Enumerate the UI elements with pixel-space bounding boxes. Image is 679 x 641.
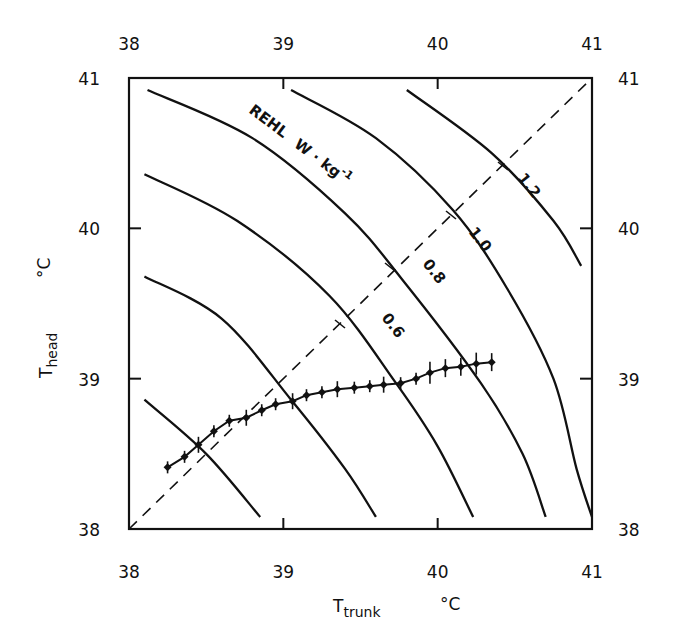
tick-labels: 38394041383940413839404138394041 (78, 34, 639, 582)
y-tick-label: 39 (78, 370, 100, 390)
right-tick-label: 38 (618, 520, 640, 540)
y-tick-label: 41 (78, 69, 100, 89)
data-point (272, 400, 280, 408)
data-point (426, 369, 434, 377)
isoline-value-label: 1.0 (465, 223, 496, 255)
x-tick-label: 39 (273, 562, 295, 582)
data-point (457, 363, 465, 371)
y-tick-label: 38 (78, 520, 100, 540)
data-point (472, 360, 480, 368)
right-tick-label: 41 (618, 69, 640, 89)
data-point (380, 381, 388, 389)
data-point (318, 388, 326, 396)
data-point (350, 384, 358, 392)
y-axis-unit: °C (34, 258, 54, 278)
top-tick-label: 38 (118, 34, 140, 54)
data-point (333, 385, 341, 393)
x-tick-label: 40 (427, 562, 449, 582)
data-series (164, 353, 496, 474)
isoline (144, 276, 375, 517)
right-tick-label: 40 (618, 219, 640, 239)
x-tick-label: 41 (581, 562, 603, 582)
x-axis-title: Ttrunk (332, 596, 381, 620)
data-point (441, 364, 449, 372)
data-point (302, 391, 310, 399)
x-axis-unit: °C (440, 594, 460, 614)
top-tick-label: 40 (427, 34, 449, 54)
chart: 38394041383940413839404138394041 0.60.81… (0, 0, 679, 641)
data-point (488, 358, 496, 366)
isoline-value-label: 1.2 (514, 169, 545, 201)
isoline (148, 90, 546, 517)
data-point (366, 382, 374, 390)
isoline (144, 174, 473, 517)
isolines: 0.60.81.01.2 (144, 90, 592, 517)
data-point (242, 414, 250, 422)
top-tick-label: 39 (273, 34, 295, 54)
data-point (412, 375, 420, 383)
isoline (407, 90, 581, 266)
data-point (258, 406, 266, 414)
isoline-value-label: 0.8 (419, 255, 450, 287)
x-tick-label: 38 (118, 562, 140, 582)
top-tick-label: 41 (581, 34, 603, 54)
y-axis-title: Thead (36, 333, 60, 379)
y-tick-label: 40 (78, 219, 100, 239)
right-tick-label: 39 (618, 370, 640, 390)
isoline-value-label: 0.6 (378, 309, 409, 341)
